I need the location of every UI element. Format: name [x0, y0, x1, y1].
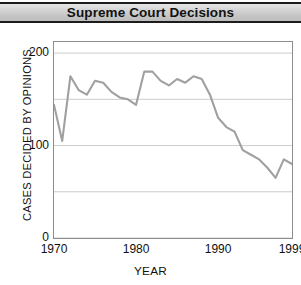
- data-series-line: [54, 72, 292, 178]
- x-axis-tick-labels: 1970198019901999: [0, 243, 301, 261]
- grid-lines: [54, 53, 292, 238]
- chart-figure: Supreme Court Decisions 0100200 CASES DE…: [0, 0, 301, 285]
- plot-area: [53, 41, 293, 239]
- x-axis-label: YEAR: [0, 264, 301, 278]
- page-title: Supreme Court Decisions: [67, 6, 234, 20]
- x-axis-tick: 1999: [279, 243, 301, 255]
- x-axis-tick: 1990: [205, 243, 232, 255]
- x-axis-tick: 1980: [123, 243, 150, 255]
- x-axis-tick: 1970: [41, 243, 68, 255]
- line-chart-svg: [54, 42, 292, 238]
- y-axis-label: CASES DECIDED BY OPINIONS: [21, 35, 33, 235]
